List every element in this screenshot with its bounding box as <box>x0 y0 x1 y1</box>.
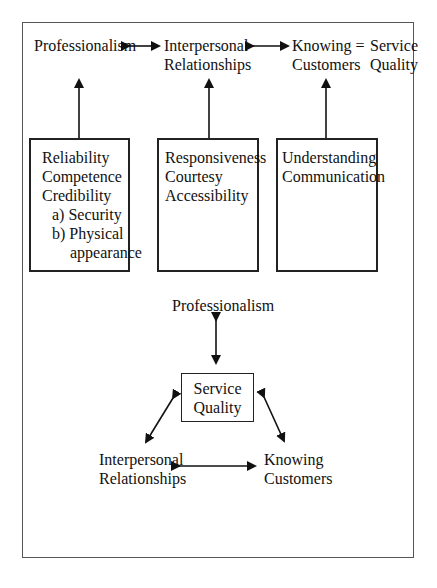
service-quality-line1: Service <box>182 379 253 398</box>
double-arrow-icon <box>264 397 284 441</box>
triangle-right-line1: Knowing <box>264 450 332 469</box>
arrows-layer <box>0 0 437 588</box>
triangle-top-professionalism: Professionalism <box>172 296 274 315</box>
triangle-right-line2: Customers <box>264 469 332 488</box>
triangle-left-interpersonal: Interpersonal Relationships <box>99 450 186 488</box>
triangle-left-line1: Interpersonal <box>99 450 186 469</box>
double-arrow-icon <box>146 398 173 442</box>
triangle-right-knowing: Knowing Customers <box>264 450 332 488</box>
triangle-left-line2: Relationships <box>99 469 186 488</box>
service-quality-box: Service Quality <box>181 373 254 422</box>
service-quality-line2: Quality <box>182 398 253 417</box>
